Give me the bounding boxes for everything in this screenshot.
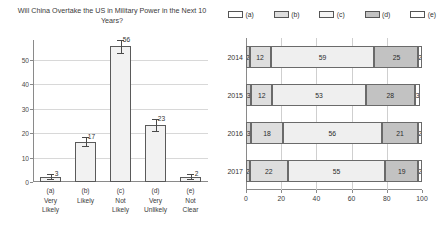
x-tick-label: 0	[244, 195, 248, 202]
x-tick-mark	[281, 190, 282, 193]
legend-swatch-icon	[274, 11, 289, 18]
legend-swatch-icon	[365, 11, 380, 18]
stacked-segment: 2	[418, 122, 422, 144]
x-category-label: (b)Likely	[77, 186, 94, 205]
legend-swatch-icon	[319, 11, 334, 18]
error-bar-cap	[152, 131, 159, 132]
stacked-segment: 18	[251, 122, 283, 144]
y-tick-label: 40	[22, 81, 29, 88]
stacked-segment: 3	[415, 84, 420, 106]
y-tick-mark	[30, 158, 33, 159]
bar-value-label: 17	[88, 133, 95, 140]
legend-item[interactable]: (a)	[228, 11, 254, 18]
error-bar	[156, 119, 157, 130]
y-tick-mark	[30, 84, 33, 85]
year-label: 2014	[227, 54, 243, 61]
stacked-segment: 12	[251, 84, 272, 106]
x-category-line: Not	[183, 196, 199, 206]
y-tick-mark	[30, 60, 33, 61]
bar-value-label: 3	[55, 170, 59, 177]
stacked-bar-row: 201631856212	[246, 122, 422, 144]
y-tick-mark	[30, 133, 33, 134]
legend-item[interactable]: (b)	[274, 11, 300, 18]
chart-title: Will China Overtake the US in Military P…	[14, 6, 210, 26]
x-tick-label: 20	[277, 195, 285, 202]
x-category-label: (a)VeryLikely	[42, 186, 59, 215]
stacked-segment: 56	[283, 122, 382, 144]
stacked-segment: 12	[250, 46, 271, 68]
stacked-segment: 25	[374, 46, 418, 68]
dual-chart-figure: Will China Overtake the US in Military P…	[0, 0, 437, 232]
year-label: 2015	[227, 92, 243, 99]
stacked-segment: 2	[418, 46, 422, 68]
y-tick-label: 10	[22, 154, 29, 161]
x-category-label: (e)NotClear	[183, 186, 199, 215]
survey-bar-chart: Will China Overtake the US in Military P…	[0, 0, 222, 232]
legend-item[interactable]: (d)	[365, 11, 391, 18]
stacked-segment: 2	[418, 160, 422, 182]
x-tick-mark	[246, 190, 247, 193]
error-bar-cap	[187, 179, 194, 180]
x-category-line: Clear	[183, 205, 199, 215]
y-tick-mark	[30, 109, 33, 110]
bar-value-label: 23	[158, 115, 165, 122]
legend-item[interactable]: (c)	[319, 11, 344, 18]
legend-swatch-icon	[410, 11, 425, 18]
legend-label: (e)	[428, 11, 436, 18]
x-category-line: Very	[42, 196, 59, 206]
x-category-line: Unlikely	[144, 205, 167, 215]
x-category-line: (a)	[42, 186, 59, 196]
stacked-segment: 53	[272, 84, 365, 106]
x-tick-mark	[352, 190, 353, 193]
x-category-line: Likely	[42, 205, 59, 215]
legend-label: (b)	[291, 11, 299, 18]
y-tick-label: 50	[22, 56, 29, 63]
x-category-line: Likely	[112, 205, 129, 215]
x-category-line: Not	[112, 196, 129, 206]
x-category-line: (d)	[144, 186, 167, 196]
stacked-bar-row: 201722255192	[246, 160, 422, 182]
legend-item[interactable]: (e)	[410, 11, 436, 18]
bar	[75, 142, 97, 182]
y-tick-label: 20	[22, 130, 29, 137]
y-tick-label: 30	[22, 105, 29, 112]
error-bar	[121, 40, 122, 53]
x-tick-label: 80	[383, 195, 391, 202]
x-tick-mark	[387, 190, 388, 193]
stacked-bar-row: 201421259252	[246, 46, 422, 68]
x-category-line: (e)	[183, 186, 199, 196]
x-tick-mark	[316, 190, 317, 193]
x-tick-label: 60	[348, 195, 356, 202]
legend-swatch-icon	[228, 11, 243, 18]
stacked-plot-area: 0204060801002014212592522015312532832016…	[246, 38, 422, 190]
y-axis-line	[33, 40, 34, 182]
stacked-x-axis-line	[246, 189, 422, 190]
stacked-segment: 21	[382, 122, 419, 144]
legend-label: (a)	[246, 11, 254, 18]
y-tick-mark	[30, 182, 33, 183]
error-bar-cap	[187, 174, 194, 175]
stacked-segment: 19	[385, 160, 418, 182]
bar	[145, 125, 167, 182]
legend-label: (d)	[382, 11, 390, 18]
x-tick-label: 100	[416, 195, 427, 202]
chart-legend: (a)(b)(c)(d)(e)	[228, 11, 436, 18]
error-bar-cap	[47, 179, 54, 180]
x-category-label: (c)NotLikely	[112, 186, 129, 215]
yearly-stacked-bar-chart: (a)(b)(c)(d)(e) 020406080100201421259252…	[222, 0, 437, 232]
bar-value-label: 56	[123, 36, 130, 43]
stacked-segment: 22	[250, 160, 289, 182]
stacked-bar-row: 201531253283	[246, 84, 422, 106]
x-category-label: (d)VeryUnlikely	[144, 186, 167, 215]
x-category-line: (b)	[77, 186, 94, 196]
bar	[110, 46, 132, 182]
y-tick-label: 0	[25, 179, 29, 186]
error-bar	[86, 137, 87, 145]
stacked-segment: 59	[271, 46, 375, 68]
year-label: 2016	[227, 130, 243, 137]
x-category-line: Very	[144, 196, 167, 206]
year-label: 2017	[227, 168, 243, 175]
x-category-line: (c)	[112, 186, 129, 196]
legend-label: (c)	[337, 11, 345, 18]
bar-plot-area: 010203040503(a)VeryLikely17(b)Likely56(c…	[33, 40, 208, 182]
